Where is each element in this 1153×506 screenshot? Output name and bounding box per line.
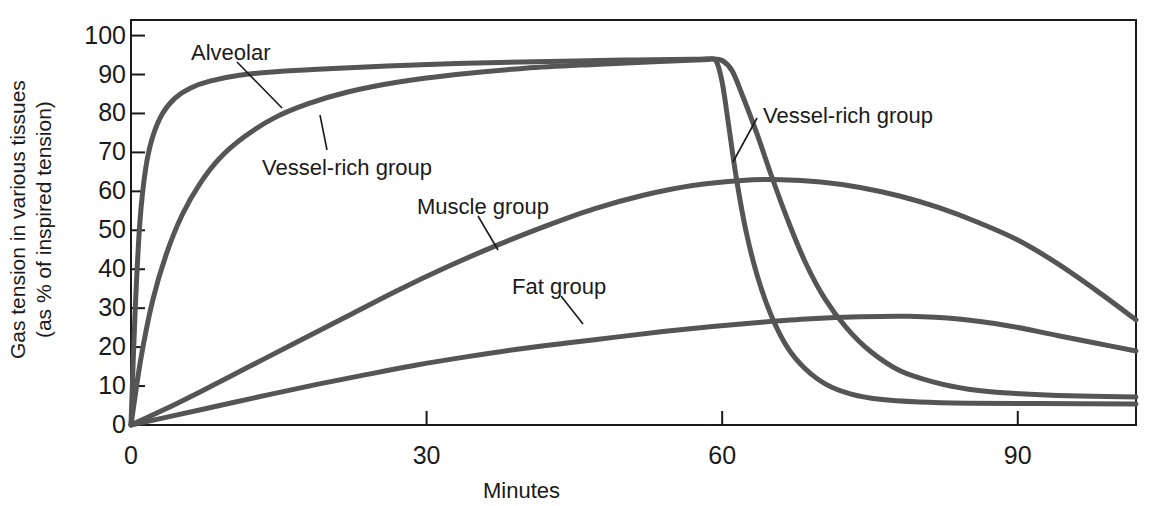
series-line-fat-group [131, 316, 1136, 425]
data-series-group [131, 59, 1136, 425]
muscle-label: Muscle group [417, 196, 549, 218]
plot-frame [131, 20, 1136, 425]
figure-container: Gas tension in various tissues (as % of … [0, 0, 1153, 506]
vessel-rich-fall-label: Vessel-rich group [763, 105, 933, 127]
plot-frame-rect [131, 20, 1136, 425]
x-axis-title-text: Minutes [483, 478, 560, 503]
x-axis-title: Minutes [0, 478, 1153, 504]
plot-area [0, 0, 1153, 506]
vessel-rich-rise-label: Vessel-rich group [262, 157, 432, 179]
fat-label: Fat group [512, 276, 606, 298]
alveolar-label-leader-line [237, 62, 282, 108]
muscle-label-leader-line [478, 216, 498, 250]
series-line-vessel-rich-group [131, 59, 1136, 425]
series-line-muscle-group [131, 180, 1136, 425]
vessel-rich-fall-label-leader-line [733, 118, 757, 162]
axis-ticks [131, 36, 1018, 425]
alveolar-label: Alveolar [191, 42, 270, 64]
fat-label-leader-line [561, 296, 583, 324]
vessel-rich-rise-label-leader-line [320, 115, 327, 150]
